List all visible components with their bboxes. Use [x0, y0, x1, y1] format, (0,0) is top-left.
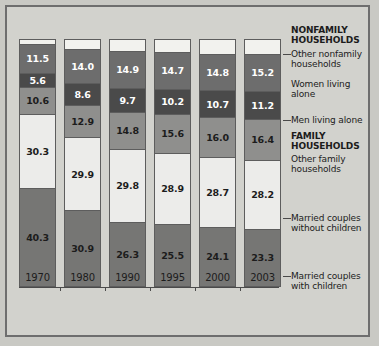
segment-value-label: 15.6	[161, 129, 184, 139]
x-axis-tick	[150, 287, 151, 291]
bar-segment[interactable]: 16.4	[245, 120, 280, 161]
bar-segment[interactable]: 14.8	[200, 55, 235, 92]
segment-value-label: 29.9	[71, 170, 94, 180]
legend-item-women-alone-line2: alone	[291, 89, 315, 100]
segment-value-label: 14.8	[206, 68, 229, 78]
legend-item-other-nonfamily-line2: households	[291, 59, 341, 70]
chart-frame: 1.711.55.610.630.340.319703.614.08.612.9…	[5, 5, 370, 337]
segment-value-label: 10.2	[161, 97, 184, 107]
bar-segment[interactable]: 29.9	[65, 138, 100, 211]
segment-value-label: 29.8	[116, 181, 139, 191]
x-axis-tick	[105, 287, 106, 291]
bar-segment[interactable]: 28.9	[155, 154, 190, 225]
x-axis-tick-label: 2003	[240, 272, 285, 283]
bar-column[interactable]: 1.711.55.610.630.340.31970	[19, 39, 56, 287]
segment-value-label: 30.3	[26, 147, 49, 157]
legend-item-men-alone: Men living alone	[291, 115, 362, 126]
bar-segment[interactable]: 16.0	[200, 118, 235, 158]
bar-segment[interactable]	[65, 40, 100, 50]
leader-line-married-with	[283, 276, 291, 277]
segment-value-label: 24.1	[206, 252, 229, 262]
bar-segment[interactable]: 28.7	[200, 158, 235, 228]
legend-group-nonfamily-line1: NONFAMILY	[291, 25, 348, 36]
stacked-bar[interactable]: 14.08.612.929.930.9	[64, 39, 101, 287]
segment-value-label: 28.9	[161, 184, 184, 194]
segment-value-label: 40.3	[26, 233, 49, 243]
x-axis-tick-label: 2000	[195, 272, 240, 283]
legend-group-family-line1: FAMILY	[291, 131, 325, 142]
bar-segment[interactable]: 10.2	[155, 90, 190, 116]
bar-segment[interactable]	[155, 40, 190, 53]
chart-legend: NONFAMILY HOUSEHOLDS Other nonfamily hou…	[291, 17, 369, 313]
segment-value-label: 8.6	[74, 90, 90, 100]
stacked-bar[interactable]: 14.810.716.028.724.1	[199, 39, 236, 287]
leader-line-men-alone	[283, 120, 291, 121]
legend-item-other-family-line1: Other family	[291, 154, 345, 165]
bar-column[interactable]: 4.614.99.714.829.826.31990	[109, 39, 146, 287]
segment-value-label: 28.2	[251, 190, 274, 200]
legend-item-married-with-line1: Married couples	[291, 271, 360, 282]
segment-value-label: 28.7	[206, 188, 229, 198]
segment-value-label: 10.7	[206, 100, 229, 110]
bar-segment[interactable]: 29.8	[110, 150, 145, 223]
segment-value-label: 25.5	[161, 251, 184, 261]
bar-column[interactable]: 3.614.08.612.929.930.91980	[64, 39, 101, 287]
segment-value-label: 12.9	[71, 117, 94, 127]
bar-segment[interactable]: 28.2	[245, 161, 280, 230]
segment-value-label: 26.3	[116, 250, 139, 260]
x-axis-tick	[195, 287, 196, 291]
segment-value-label: 10.6	[26, 96, 49, 106]
segment-value-label: 5.6	[29, 76, 45, 86]
bar-segment[interactable]: 12.9	[65, 106, 100, 138]
bar-segment[interactable]	[110, 40, 145, 52]
bar-segment[interactable]: 10.6	[20, 88, 55, 115]
x-axis-tick-label: 1990	[105, 272, 150, 283]
legend-group-nonfamily-line2: HOUSEHOLDS	[291, 35, 360, 46]
segment-value-label: 11.2	[251, 101, 274, 111]
segment-value-label: 11.5	[26, 54, 49, 64]
legend-item-married-without-line2: without children	[291, 223, 361, 234]
bar-segment[interactable]: 15.6	[155, 115, 190, 154]
legend-item-women-alone-line1: Women living	[291, 79, 350, 90]
legend-item-married-without-line1: Married couples	[291, 213, 360, 224]
bar-segment[interactable]: 11.2	[245, 92, 280, 120]
segment-value-label: 9.7	[119, 96, 135, 106]
x-axis-tick-label: 1980	[60, 272, 105, 283]
stacked-bar[interactable]: 11.55.610.630.340.3	[19, 39, 56, 287]
x-axis-tick-label: 1995	[150, 272, 195, 283]
bar-segment[interactable]	[200, 40, 235, 55]
bar-segment[interactable]: 11.5	[20, 45, 55, 74]
segment-value-label: 14.8	[116, 126, 139, 136]
stacked-bar[interactable]: 15.211.216.428.223.3	[244, 39, 281, 287]
legend-item-married-with-line2: with children	[291, 281, 347, 292]
bar-column[interactable]: 5.615.211.216.428.223.32003	[244, 39, 281, 287]
bar-segment[interactable]: 14.0	[65, 50, 100, 85]
bar-segment[interactable]	[245, 40, 280, 55]
legend-item-other-family-line2: households	[291, 164, 341, 175]
stacked-bar[interactable]: 14.99.714.829.826.3	[109, 39, 146, 287]
bar-segment[interactable]: 5.6	[20, 74, 55, 89]
bar-segment[interactable]: 30.3	[20, 115, 55, 189]
segment-value-label: 14.0	[71, 62, 94, 72]
segment-value-label: 23.3	[251, 253, 274, 263]
legend-group-family-line2: HOUSEHOLDS	[291, 141, 360, 152]
segment-value-label: 16.4	[251, 135, 274, 145]
stacked-bar[interactable]: 14.710.215.628.925.5	[154, 39, 191, 287]
bar-segment[interactable]: 9.7	[110, 89, 145, 113]
segment-value-label: 14.9	[116, 65, 139, 75]
bar-column[interactable]: 5.714.810.716.028.724.12000	[199, 39, 236, 287]
x-axis-tick	[240, 287, 241, 291]
leader-line-other-nonfamily	[283, 54, 291, 55]
bar-segment[interactable]: 8.6	[65, 84, 100, 106]
bar-segment[interactable]: 14.7	[155, 53, 190, 89]
stacked-bar-plot: 1.711.55.610.630.340.319703.614.08.612.9…	[19, 17, 279, 313]
x-axis-tick	[60, 287, 61, 291]
bar-column[interactable]: 5.014.710.215.628.925.51995	[154, 39, 191, 287]
segment-value-label: 14.7	[161, 66, 184, 76]
bar-segment[interactable]: 14.8	[110, 113, 145, 150]
legend-item-other-nonfamily-line1: Other nonfamily	[291, 49, 362, 60]
bar-segment[interactable]: 10.7	[200, 91, 235, 118]
segment-value-label: 30.9	[71, 244, 94, 254]
bar-segment[interactable]: 14.9	[110, 52, 145, 89]
bar-segment[interactable]: 15.2	[245, 55, 280, 93]
